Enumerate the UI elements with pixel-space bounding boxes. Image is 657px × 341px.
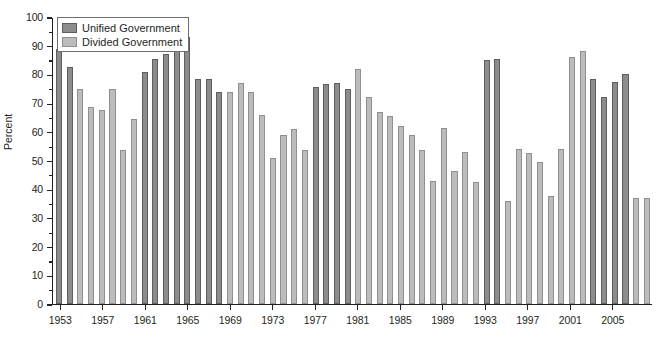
bar (291, 129, 297, 304)
bar (184, 37, 190, 304)
bar (548, 196, 554, 304)
y-tick-label: 80 (32, 68, 43, 80)
x-tick-mark (485, 305, 486, 310)
bar (612, 82, 618, 304)
x-axis: 1953195719611965196919731977198119851989… (52, 305, 652, 341)
bar (462, 152, 468, 304)
bar (355, 69, 361, 304)
x-tick-mark (527, 305, 528, 310)
bar (494, 59, 500, 304)
x-tick-label: 1997 (513, 314, 543, 326)
legend-label-unified: Unified Government (82, 22, 180, 34)
bar-series-container (53, 18, 652, 304)
x-tick-label: 1989 (428, 314, 458, 326)
bar (484, 60, 490, 304)
bar (280, 135, 286, 304)
bar (67, 67, 73, 304)
legend-item-divided: Divided Government (62, 35, 182, 48)
bar (88, 107, 94, 304)
y-tick-label: 20 (32, 241, 43, 253)
bar (227, 92, 233, 304)
x-tick-mark (400, 305, 401, 310)
x-tick-label: 2001 (555, 314, 585, 326)
x-tick-mark (102, 305, 103, 310)
y-axis-title: Percent (2, 114, 14, 150)
x-tick-mark (612, 305, 613, 310)
plot-area (52, 18, 652, 305)
bar (334, 83, 340, 304)
y-tick-label: 40 (32, 183, 43, 195)
scan-artifact-strip (0, 0, 657, 12)
x-tick-label: 1981 (343, 314, 373, 326)
bar (473, 182, 479, 304)
x-tick-label: 1977 (300, 314, 330, 326)
x-tick-label: 1961 (130, 314, 160, 326)
bar (216, 92, 222, 304)
bar (569, 57, 575, 304)
bar (366, 97, 372, 304)
bar (323, 84, 329, 304)
bar (419, 150, 425, 304)
y-tick-label: 0 (37, 298, 43, 310)
x-tick-mark (60, 305, 61, 310)
bar (270, 158, 276, 304)
y-tick-label: 70 (32, 97, 43, 109)
bar (516, 149, 522, 304)
bar (77, 89, 83, 304)
bar (590, 79, 596, 304)
bar (505, 201, 511, 304)
x-tick-mark (145, 305, 146, 310)
bar (537, 162, 543, 304)
legend-swatch-divided-icon (62, 37, 77, 47)
bar (345, 89, 351, 304)
bar (195, 79, 201, 304)
x-tick-mark (570, 305, 571, 310)
bar (377, 112, 383, 304)
bar (174, 51, 180, 304)
bar (238, 83, 244, 304)
bar (601, 97, 607, 304)
bar (644, 198, 650, 304)
bar (526, 153, 532, 304)
bar (451, 171, 457, 304)
bar (259, 115, 265, 304)
bar (206, 79, 212, 304)
bar (622, 74, 628, 304)
bar (142, 72, 148, 304)
x-tick-label: 2005 (598, 314, 628, 326)
bar (441, 128, 447, 305)
y-tick-label: 60 (32, 126, 43, 138)
chart-legend: Unified Government Divided Government (57, 17, 189, 52)
y-tick-label: 90 (32, 40, 43, 52)
x-tick-mark (272, 305, 273, 310)
bar (558, 149, 564, 304)
bar (398, 126, 404, 304)
x-tick-mark (442, 305, 443, 310)
legend-item-unified: Unified Government (62, 21, 182, 34)
x-tick-label: 1953 (45, 314, 75, 326)
bar (313, 87, 319, 304)
bar (109, 89, 115, 304)
bar (302, 150, 308, 304)
y-tick-label: 100 (26, 11, 43, 23)
legend-swatch-unified-icon (62, 23, 77, 33)
bar (248, 92, 254, 304)
legend-label-divided: Divided Government (82, 36, 182, 48)
y-tick-label: 50 (32, 155, 43, 167)
bar (163, 54, 169, 304)
x-tick-label: 1965 (173, 314, 203, 326)
x-tick-label: 1993 (470, 314, 500, 326)
y-tick-label: 10 (32, 269, 43, 281)
bar (430, 181, 436, 304)
bar (580, 51, 586, 304)
x-tick-mark (357, 305, 358, 310)
bar (120, 150, 126, 304)
y-axis: Percent 0102030405060708090100 (0, 0, 52, 341)
bar (131, 119, 137, 304)
bar (409, 135, 415, 304)
x-tick-mark (187, 305, 188, 310)
x-tick-mark (230, 305, 231, 310)
x-tick-label: 1969 (215, 314, 245, 326)
x-tick-mark (315, 305, 316, 310)
bar (152, 59, 158, 304)
